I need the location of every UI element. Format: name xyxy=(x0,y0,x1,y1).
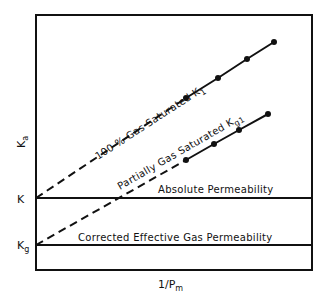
tick-label-kg: Kg xyxy=(17,239,29,254)
tick-label-k: K xyxy=(17,193,25,206)
permeability-chart: 100 % Gas Saturated K1 Partially Gas Sat… xyxy=(0,0,334,296)
data-point xyxy=(244,56,250,62)
absolute-permeability-label: Absolute Permeability xyxy=(158,184,274,195)
series2-label: Partially Gas Saturated Kg1 xyxy=(116,111,247,195)
series1-label: 100 % Gas Saturated K1 xyxy=(93,83,208,164)
data-point xyxy=(183,157,189,163)
data-point xyxy=(215,75,221,81)
data-point xyxy=(211,141,217,147)
data-point xyxy=(271,39,277,45)
data-point xyxy=(265,111,271,117)
y-axis-label: Ka xyxy=(15,136,30,148)
corrected-permeability-label: Corrected Effective Gas Permeability xyxy=(78,232,273,243)
x-axis-label: 1/Pm xyxy=(158,278,183,293)
